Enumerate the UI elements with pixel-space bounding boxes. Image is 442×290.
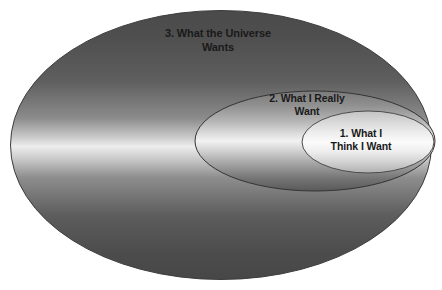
ellipse-think-i-want[interactable] bbox=[302, 111, 434, 173]
nested-ellipse-diagram bbox=[0, 0, 442, 290]
